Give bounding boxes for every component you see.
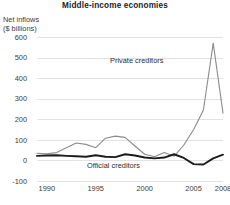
y-axis-label: Net inflows ($ billions) — [3, 15, 39, 33]
y-tick-600: 600 — [0, 33, 27, 42]
y-axis-label-line1: Net inflows — [3, 15, 39, 24]
chart-title: Middle-income economies — [0, 1, 230, 10]
series-annotation-private-creditors: Private creditors — [110, 56, 163, 65]
gridline--100 — [37, 181, 223, 182]
y-tick-0: 0 — [0, 156, 27, 165]
x-tick-2008: 2008 — [215, 184, 230, 193]
y-tick-300: 300 — [0, 94, 27, 103]
x-tick-2000: 2000 — [136, 184, 152, 193]
x-tick-1995: 1995 — [87, 184, 103, 193]
y-tick-400: 400 — [0, 74, 27, 83]
chart-figure: Middle-income economies Net inflows ($ b… — [0, 0, 230, 205]
y-tick-500: 500 — [0, 53, 27, 62]
series-annotation-official-creditors: Official creditors — [87, 161, 140, 170]
x-tick-1990: 1990 — [39, 184, 55, 193]
y-tick--100: -100 — [0, 177, 27, 186]
plot-area: 6005004003002001000-100 1990199520002005… — [37, 37, 223, 181]
x-tick-2005: 2005 — [185, 184, 201, 193]
y-tick-200: 200 — [0, 115, 27, 124]
y-tick-100: 100 — [0, 136, 27, 145]
